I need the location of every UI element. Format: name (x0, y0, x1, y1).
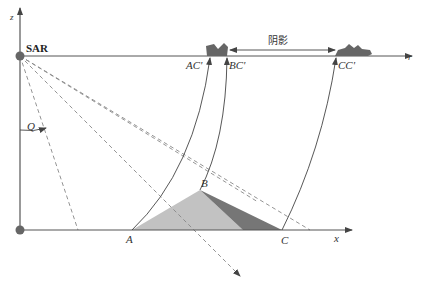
shadow-label: 阴影 (268, 35, 288, 46)
angle-label: Q (27, 120, 35, 132)
arc-c (282, 58, 336, 230)
image-returns (206, 43, 372, 56)
origin-dot (16, 226, 25, 235)
z-axis-label: z (9, 12, 14, 22)
sar-sensor-dot (16, 52, 25, 61)
proj-c-label: CC' (338, 59, 356, 71)
radar-rays (20, 56, 310, 276)
point-c-label: C (281, 234, 289, 246)
sar-geometry-diagram: z SAR Q A B C x r AC' BC' CC' 阴影 (0, 0, 421, 300)
point-a-label: A (125, 233, 133, 245)
terrain (132, 190, 282, 230)
return-blob-c (335, 44, 372, 56)
r-axis-label: r (408, 52, 412, 62)
arc-b (200, 58, 227, 190)
ray-to-b (20, 56, 258, 202)
x-axis-label: x (333, 232, 339, 244)
layover-blob (206, 43, 228, 56)
ray-tangent-b (20, 56, 310, 230)
proj-a-label: AC' (185, 59, 203, 71)
range-arcs (132, 58, 336, 230)
proj-b-label: BC' (229, 59, 246, 71)
point-b-label: B (201, 177, 208, 189)
ray-near (20, 56, 78, 230)
sar-label: SAR (26, 42, 49, 54)
